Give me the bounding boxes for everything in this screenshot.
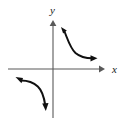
hyperbola-branch-i-path (65, 32, 93, 59)
hyperbola-figure: x y (0, 0, 131, 125)
branch-i-right-arrow-icon (91, 55, 98, 61)
y-axis-label: y (49, 4, 55, 16)
x-axis-label: x (111, 63, 117, 75)
hyperbola-branch-iii-path (21, 81, 45, 106)
x-axis-arrow-icon (99, 66, 105, 73)
y-axis-arrow-icon (50, 20, 57, 26)
branch-iii-bottom-arrow-icon (42, 103, 48, 111)
axes-group (8, 20, 105, 118)
branch-quadrant-one (61, 27, 98, 61)
graph-canvas: x y (0, 0, 131, 125)
branch-iii-left-arrow-icon (16, 77, 24, 83)
branch-quadrant-three (16, 77, 49, 111)
